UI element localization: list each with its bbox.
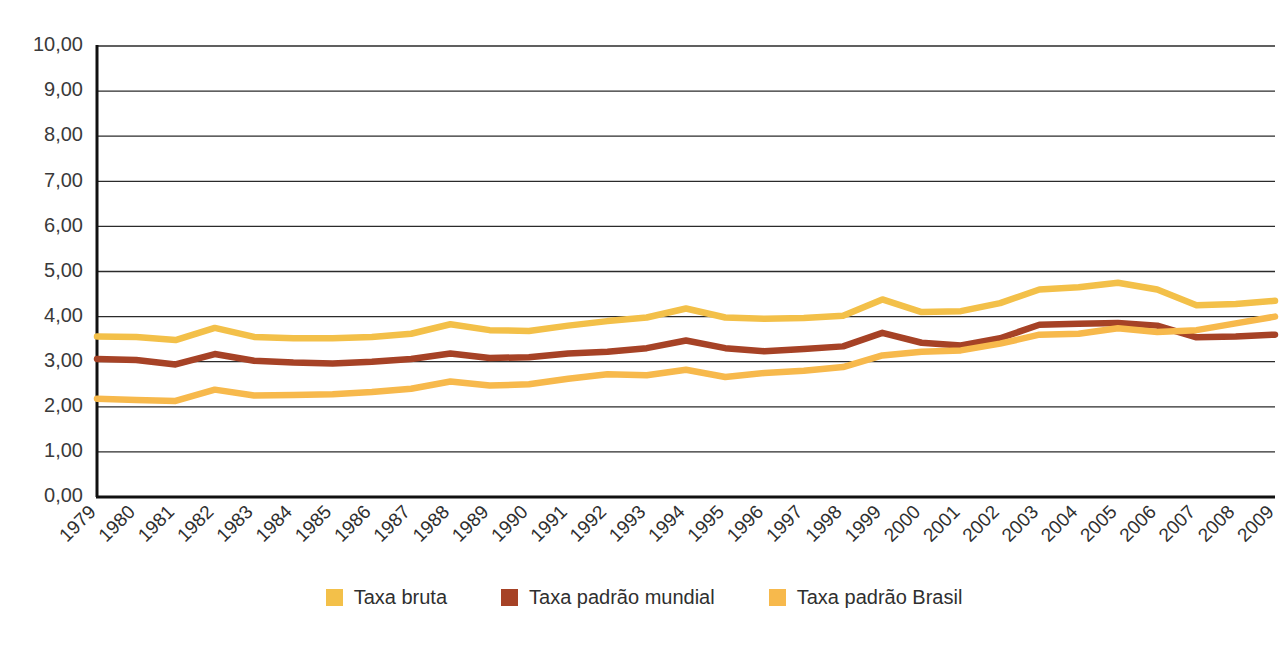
- x-axis-tick-label: 2007: [1155, 501, 1200, 546]
- y-axis-tick-label: 7,00: [44, 169, 83, 191]
- x-axis-tick-label: 2008: [1194, 501, 1239, 546]
- data-series: [97, 283, 1275, 401]
- x-axis-tick-label: 1983: [212, 501, 257, 546]
- x-axis-tick-label: 2000: [880, 501, 925, 546]
- legend-item[interactable]: Taxa bruta: [326, 586, 447, 609]
- line-chart: 0,001,002,003,004,005,006,007,008,009,00…: [0, 0, 1288, 653]
- x-axis-tick-label: 1996: [723, 501, 768, 546]
- x-axis-tick-label: 1992: [566, 501, 611, 546]
- x-axis-tick-label: 1997: [762, 501, 807, 546]
- y-axis-tick-label: 1,00: [44, 439, 83, 461]
- chart-plot-area: 0,001,002,003,004,005,006,007,008,009,00…: [0, 0, 1288, 653]
- x-axis-tick-label: 2009: [1233, 501, 1278, 546]
- x-axis-tick-label: 2005: [1076, 501, 1121, 546]
- legend-swatch-icon: [326, 589, 343, 606]
- x-axis-tick-label: 1998: [801, 501, 846, 546]
- x-axis-tick-label: 1980: [94, 501, 139, 546]
- x-axis-tick-label: 1979: [55, 501, 100, 546]
- x-axis-tick-label: 1989: [448, 501, 493, 546]
- legend-label: Taxa bruta: [354, 586, 447, 609]
- y-axis-tick-label: 0,00: [44, 484, 83, 506]
- legend-item[interactable]: Taxa padrão Brasil: [769, 586, 963, 609]
- legend-item[interactable]: Taxa padrão mundial: [501, 586, 715, 609]
- x-axis-tick-labels: 1979198019811982198319841985198619871988…: [55, 501, 1278, 546]
- chart-legend: Taxa brutaTaxa padrão mundialTaxa padrão…: [0, 586, 1288, 609]
- y-axis-tick-label: 6,00: [44, 214, 83, 236]
- x-axis-tick-label: 1991: [526, 501, 571, 546]
- y-axis-tick-label: 2,00: [44, 394, 83, 416]
- x-axis-tick-label: 2003: [997, 501, 1042, 546]
- legend-swatch-icon: [501, 589, 518, 606]
- y-axis-tick-label: 4,00: [44, 304, 83, 326]
- x-axis-tick-label: 1986: [330, 501, 375, 546]
- x-axis-tick-label: 1993: [605, 501, 650, 546]
- legend-swatch-icon: [769, 589, 786, 606]
- x-axis-tick-label: 1982: [173, 501, 218, 546]
- y-axis-tick-labels: 0,001,002,003,004,005,006,007,008,009,00…: [33, 33, 83, 506]
- legend-label: Taxa padrão Brasil: [797, 586, 963, 609]
- x-axis-tick-label: 1985: [291, 501, 336, 546]
- x-axis-tick-label: 2001: [919, 501, 964, 546]
- x-axis-tick-label: 1987: [369, 501, 414, 546]
- y-axis-tick-label: 10,00: [33, 33, 83, 55]
- x-axis-tick-label: 1999: [840, 501, 885, 546]
- x-axis-tick-label: 1988: [408, 501, 453, 546]
- x-axis-tick-label: 1981: [134, 501, 179, 546]
- y-axis-tick-label: 3,00: [44, 349, 83, 371]
- x-axis-tick-label: 1995: [683, 501, 728, 546]
- y-axis-tick-label: 5,00: [44, 259, 83, 281]
- x-axis-tick-label: 2002: [958, 501, 1003, 546]
- x-axis-tick-label: 2006: [1115, 501, 1160, 546]
- x-axis-tick-label: 1984: [251, 501, 296, 546]
- x-axis-tick-label: 1994: [644, 501, 689, 546]
- x-axis-tick-label: 1990: [487, 501, 532, 546]
- x-axis-tick-label: 2004: [1037, 501, 1082, 546]
- gridlines: [97, 46, 1275, 497]
- legend-label: Taxa padrão mundial: [529, 586, 715, 609]
- y-axis-tick-label: 9,00: [44, 78, 83, 100]
- y-axis-tick-label: 8,00: [44, 123, 83, 145]
